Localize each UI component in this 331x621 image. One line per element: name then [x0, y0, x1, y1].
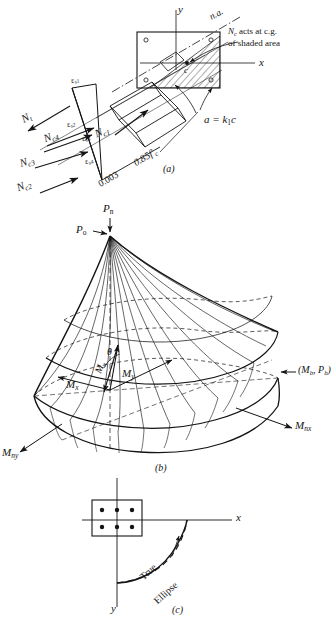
note-shaded-area-text: of shaded area [228, 38, 280, 48]
axis-arrow-Mny [20, 424, 62, 452]
label-axis-Mnx: Mnx [295, 420, 311, 433]
label-Po: Po [76, 224, 86, 237]
force-arrow-Nc2 [40, 178, 78, 193]
leader-a-right [200, 88, 212, 110]
panel-b-group [20, 218, 296, 453]
surface-base-right-edge [278, 378, 280, 406]
label-My: My [122, 368, 135, 381]
note-shaded-area: of shaded area [228, 38, 280, 49]
axis-label-y-c: y [111, 603, 116, 614]
label-theta: θ [107, 347, 112, 357]
axis-label-x-a: x [259, 57, 264, 68]
axis-arrow-Mnx [236, 408, 292, 428]
label-Mx: Mx [66, 379, 79, 392]
label-Pn: Pn [103, 203, 113, 216]
label-balanced-point: (Mb, Pb) [298, 365, 331, 377]
surface-outline [34, 236, 278, 396]
force-arrow-Nc1 [115, 110, 148, 135]
force-arrow-Nt [28, 106, 70, 131]
prism-edge-base [58, 70, 222, 165]
leader-a-tail [160, 112, 198, 152]
caption-panel-b: (b) [155, 462, 167, 473]
caption-panel-a: (a) [163, 163, 175, 174]
arrow-Po [93, 231, 107, 234]
label-axis-Mny: Mny [2, 447, 18, 460]
stress-block-prism [110, 82, 186, 147]
label-a-k1c: a = k1c [204, 114, 236, 127]
axis-label-y-a: y [178, 4, 183, 15]
caption-panel-c: (c) [172, 604, 183, 615]
depth-label-c: c [184, 66, 188, 75]
prism-edge-lower [40, 55, 205, 150]
force-arrow-Nc3 [35, 152, 88, 168]
surface-meridians [34, 236, 274, 432]
axis-label-x-c: x [236, 512, 241, 523]
note-nc-centroid: Nc acts at c.g. [228, 26, 277, 38]
panel-c-group [82, 478, 232, 607]
note-nc-rest: acts at c.g. [237, 26, 277, 36]
